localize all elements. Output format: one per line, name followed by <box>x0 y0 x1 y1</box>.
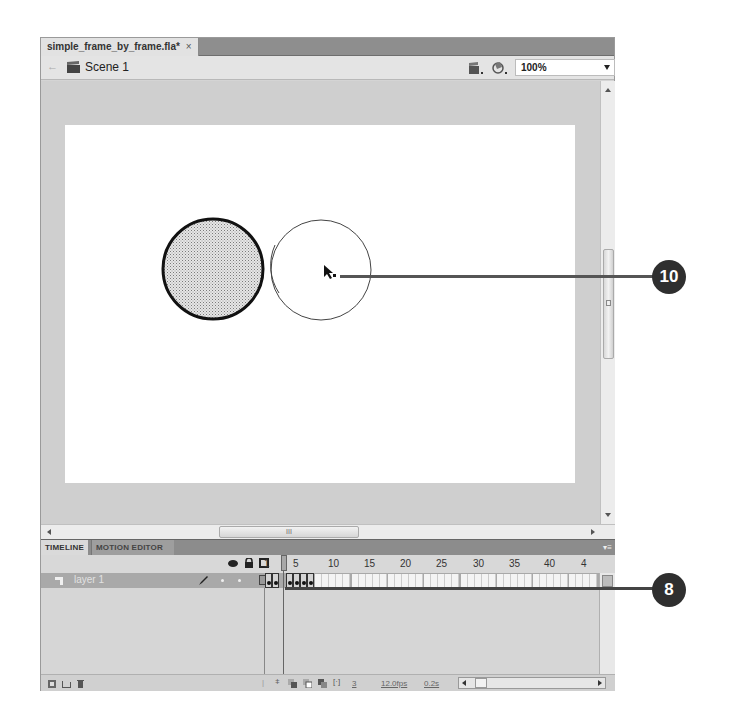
scroll-right-icon[interactable] <box>591 529 595 535</box>
callout-line-10 <box>340 275 655 278</box>
edit-scene-icon[interactable] <box>492 61 508 75</box>
scroll-right-icon[interactable] <box>598 680 602 686</box>
frame-number: 4 <box>581 558 587 569</box>
panel-menu-icon[interactable]: ▾≡ <box>603 543 612 552</box>
eye-icon[interactable] <box>228 560 238 567</box>
scene-label: Scene 1 <box>85 60 129 74</box>
tab-motion-editor[interactable]: MOTION EDITOR <box>91 540 174 556</box>
playhead-line <box>283 571 284 684</box>
playhead-marker-icon[interactable]: ǂ <box>275 677 284 686</box>
trash-icon[interactable] <box>76 679 85 688</box>
callout-badge-10: 10 <box>652 260 686 294</box>
onion-skin-circle <box>163 219 263 319</box>
callout-badge-8: 8 <box>652 573 686 607</box>
timeline-footer: | ǂ [·] 3 12.0fps 0.2s <box>41 674 615 691</box>
back-arrow-icon[interactable]: ← <box>47 60 58 72</box>
center-frame-icon[interactable]: | <box>262 678 271 687</box>
scroll-down-icon[interactable] <box>605 513 611 517</box>
flash-document-window: simple_frame_by_frame.fla* × ← Scene 1 1… <box>40 37 615 691</box>
scroll-left-icon[interactable] <box>462 680 466 686</box>
selection-arrow-icon <box>324 265 336 279</box>
visibility-dot[interactable] <box>221 579 224 582</box>
timeline-divider <box>264 588 265 684</box>
layer-icon <box>55 576 64 585</box>
frame-number: 20 <box>400 558 411 569</box>
frame-number: 1 <box>264 558 270 569</box>
timeline-scroll-thumb[interactable] <box>602 575 613 587</box>
onion-skin-outlines-icon[interactable] <box>303 679 312 688</box>
document-tab-label: simple_frame_by_frame.fla* <box>47 38 180 56</box>
scroll-left-icon[interactable] <box>47 529 51 535</box>
layer-name[interactable]: layer 1 <box>74 574 104 585</box>
edit-multiple-frames-icon[interactable] <box>318 679 327 688</box>
vertical-scroll-thumb[interactable] <box>603 249 614 359</box>
keyframe[interactable] <box>286 573 293 588</box>
scroll-up-icon[interactable] <box>605 88 611 92</box>
pencil-icon <box>198 575 209 586</box>
onion-skin-icon[interactable] <box>288 679 297 688</box>
current-frame-circle <box>271 220 371 320</box>
document-tab[interactable]: simple_frame_by_frame.fla* × <box>41 38 199 56</box>
horizontal-scroll-thumb[interactable]: III <box>219 526 359 538</box>
document-tab-bar: simple_frame_by_frame.fla* × <box>41 38 614 56</box>
timeline-frames[interactable] <box>264 573 594 588</box>
keyframe[interactable] <box>307 573 314 588</box>
frame-number: 35 <box>509 558 520 569</box>
pasteboard <box>41 81 600 524</box>
tab-timeline[interactable]: TIMELINE <box>41 540 88 556</box>
stage-vertical-scrollbar[interactable] <box>600 81 615 524</box>
new-folder-icon[interactable] <box>62 679 71 688</box>
keyframe[interactable] <box>272 573 279 588</box>
close-icon[interactable]: × <box>186 38 192 56</box>
keyframe[interactable] <box>265 573 272 588</box>
zoom-dropdown[interactable]: 100% <box>515 59 615 76</box>
stage[interactable] <box>65 125 575 483</box>
keyframe[interactable] <box>293 573 300 588</box>
elapsed-time: 0.2s <box>424 679 439 688</box>
frame-rate[interactable]: 12.0fps <box>381 679 407 688</box>
lock-dot[interactable] <box>238 579 241 582</box>
callout-line-8 <box>285 587 655 590</box>
timeline-layers-area <box>41 588 599 684</box>
lock-icon[interactable] <box>245 558 253 568</box>
frame-number: 25 <box>436 558 447 569</box>
frame-number: 40 <box>544 558 555 569</box>
keyframe[interactable] <box>300 573 307 588</box>
panel-tab-bar: TIMELINE MOTION EDITOR ▾≡ <box>41 539 615 555</box>
frame-number: 5 <box>293 558 299 569</box>
frame-number: 15 <box>364 558 375 569</box>
zoom-value: 100% <box>521 62 547 73</box>
clapperboard-icon <box>67 61 80 73</box>
frame-number: 10 <box>328 558 339 569</box>
edit-bar: ← Scene 1 100% <box>41 56 614 80</box>
stage-artwork <box>65 125 575 483</box>
modify-onion-markers-icon[interactable]: [·] <box>333 677 347 686</box>
current-frame[interactable]: 3 <box>352 679 356 688</box>
playhead[interactable] <box>281 555 287 571</box>
timeline-hscroll-thumb[interactable] <box>475 678 487 688</box>
stage-horizontal-scrollbar[interactable]: III <box>41 524 615 539</box>
frame-number: 30 <box>473 558 484 569</box>
new-layer-icon[interactable] <box>48 679 57 688</box>
timeline-horizontal-scrollbar[interactable] <box>458 677 606 689</box>
edit-symbols-icon[interactable] <box>468 61 484 75</box>
grip-icon <box>606 300 611 306</box>
chevron-down-icon <box>604 65 610 70</box>
timeline-header: 1 5 10 15 20 25 30 35 40 4 <box>41 555 615 573</box>
